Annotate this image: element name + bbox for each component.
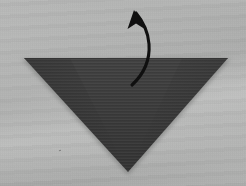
shape-and-annotation-layer [0, 0, 246, 186]
image-canvas: Dark triangle with upward curved flip ar… [0, 0, 246, 186]
